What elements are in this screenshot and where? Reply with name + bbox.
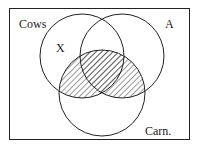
set-label-right: A: [165, 17, 174, 31]
set-label-left: X: [56, 41, 65, 55]
venn-diagram: Cows X A Carn.: [0, 0, 199, 148]
universe-label: Cows: [19, 17, 47, 31]
set-label-bottom: Carn.: [145, 124, 171, 138]
